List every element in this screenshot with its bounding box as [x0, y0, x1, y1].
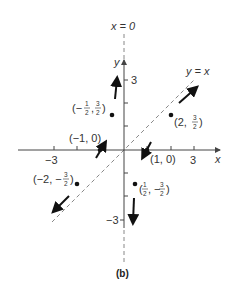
svg-text:): )	[199, 116, 203, 128]
point-label-neg-half-three-halves: (− 1 2 , 3 2 )	[72, 100, 106, 116]
svg-text:1: 1	[143, 181, 147, 188]
svg-text:3: 3	[160, 181, 164, 188]
svg-text:2: 2	[96, 109, 100, 116]
svg-text:2: 2	[143, 190, 147, 197]
point-neg-half-three-halves	[110, 79, 117, 117]
svg-text:3: 3	[64, 171, 68, 178]
point-label-half-neg-three-halves: ( 1 2 , − 3 2 )	[139, 181, 170, 197]
x-axis-label: x	[214, 153, 221, 165]
svg-text:(−: (−	[72, 102, 82, 114]
point-label-neg1-0: (−1, 0)	[69, 132, 101, 144]
svg-text:2: 2	[160, 190, 164, 197]
svg-text:, −: , −	[148, 183, 161, 195]
x-tick-label-neg3: −3	[45, 154, 58, 166]
y-tick-label-3: 3	[131, 74, 137, 86]
point-2-three-halves	[169, 88, 196, 117]
svg-text:2: 2	[193, 123, 197, 130]
y-tick-label-neg3: −3	[106, 214, 119, 226]
vector-field-diagram: x = 0 y = x x y −3 3 3 −3 (− 1 2 , 3	[0, 0, 238, 281]
figure-caption: (b)	[116, 268, 129, 279]
svg-text:3: 3	[96, 100, 100, 107]
svg-text:3: 3	[193, 114, 197, 121]
x-tick-label-3: 3	[190, 154, 196, 166]
svg-text:): )	[70, 173, 74, 185]
svg-text:(−2, −: (−2, −	[33, 173, 62, 185]
svg-text:1: 1	[85, 100, 89, 107]
svg-text:,: ,	[91, 102, 94, 114]
point-label-neg2-neg-three-halves: (−2, − 3 2 )	[33, 171, 74, 187]
y-axis-label: y	[113, 56, 121, 68]
svg-text:2: 2	[64, 180, 68, 187]
point-label-1-0: (1, 0)	[150, 153, 176, 165]
point-label-2-three-halves: (2, 3 2 )	[174, 114, 203, 130]
line-y-equals-x-label: y = x	[185, 65, 210, 77]
svg-text:2: 2	[85, 109, 89, 116]
svg-text:): )	[166, 183, 170, 195]
svg-text:): )	[102, 102, 106, 114]
line-x-equals-0-label: x = 0	[110, 20, 136, 32]
point-half-neg-three-halves	[133, 182, 138, 222]
svg-text:(2,: (2,	[174, 116, 187, 128]
